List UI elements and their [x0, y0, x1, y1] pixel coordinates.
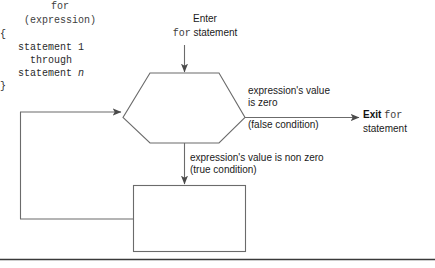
loop-back-arrow — [21, 112, 134, 219]
exit-caption: Exit for statement — [363, 108, 435, 135]
enter-keyword-for: for — [173, 28, 191, 39]
exit-word: Exit — [363, 109, 381, 120]
false-branch-label-below: (false condition) — [248, 119, 319, 131]
false-branch-label-line1: expression's value — [248, 85, 358, 97]
statement-block-box — [134, 186, 246, 252]
true-branch-label-below: (true condition) — [190, 164, 257, 176]
exit-statement-word: statement — [363, 123, 407, 134]
enter-statement-word: statement — [191, 27, 238, 38]
enter-caption-line2: for statement — [145, 27, 265, 40]
true-branch-label-above: expression's value is non zero — [190, 152, 324, 164]
enter-caption: Enter for statement — [145, 13, 265, 40]
for-condition-hexagon — [123, 73, 245, 143]
false-branch-label-line2: is zero — [248, 97, 358, 109]
figure-canvas: Enter for statement for (expression) exp… — [0, 0, 435, 268]
enter-caption-line1: Enter — [145, 13, 265, 25]
false-branch-label-above: expression's value is zero — [248, 85, 358, 109]
exit-keyword-for: for — [384, 110, 402, 121]
